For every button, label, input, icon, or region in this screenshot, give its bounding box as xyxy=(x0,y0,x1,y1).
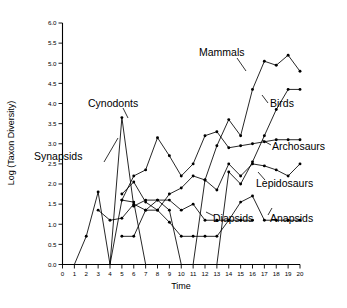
lepidosaurs-point xyxy=(132,181,135,184)
anapsids-point xyxy=(239,201,242,204)
birds-point xyxy=(287,88,290,91)
x-tick-label: 9 xyxy=(168,270,172,277)
y-tick-label: 6.0 xyxy=(48,19,57,26)
anapsids-point xyxy=(97,209,100,212)
y-tick-label: 4.0 xyxy=(48,100,57,107)
x-tick-label: 3 xyxy=(96,270,100,277)
x-tick-label: 10 xyxy=(178,270,185,277)
y-tick-label: 1.5 xyxy=(48,200,57,207)
birds-point xyxy=(263,134,266,137)
mammals-point xyxy=(227,118,230,121)
lepidosaurs-point xyxy=(299,162,302,165)
archosaurs-point xyxy=(132,175,135,178)
archosaurs-point xyxy=(144,168,147,171)
mammals-point xyxy=(204,179,207,182)
label-archosaurs: Archosaurs xyxy=(272,140,325,152)
y-tick-label: 1.0 xyxy=(48,221,57,228)
label-mammals: Mammals xyxy=(199,46,245,58)
anapsids-point xyxy=(156,199,159,202)
diapsids-point xyxy=(192,235,195,238)
y-tick-label: 5.0 xyxy=(48,60,57,67)
y-tick-label: 4.5 xyxy=(48,80,57,87)
x-axis-title: Time xyxy=(171,281,191,291)
label-lepidosaurs: Lepidosaurs xyxy=(256,177,313,189)
y-tick-label: 0.5 xyxy=(48,241,57,248)
label-synapsids: Synapsids xyxy=(34,150,82,162)
archosaurs-point xyxy=(180,175,183,178)
lepidosaurs-point xyxy=(168,193,171,196)
x-tick-label: 18 xyxy=(273,270,280,277)
diapsids-point xyxy=(132,235,135,238)
anapsids-point xyxy=(204,219,207,222)
lepidosaurs-point xyxy=(192,175,195,178)
lepidosaurs-point xyxy=(156,209,159,212)
birds-point xyxy=(227,170,230,173)
x-tick-label: 12 xyxy=(202,270,209,277)
archosaurs-point xyxy=(204,134,207,137)
mammals-point xyxy=(239,134,242,137)
mammals-point xyxy=(287,54,290,57)
anapsids-point xyxy=(120,217,123,220)
lepidosaurs-point xyxy=(263,164,266,167)
diapsids-point xyxy=(168,221,171,224)
lepidosaurs-point xyxy=(120,193,123,196)
y-axis-title: Log (Taxon Diversity) xyxy=(6,101,16,186)
synapsids-point xyxy=(85,235,88,238)
diapsids-point xyxy=(120,235,123,238)
x-tick-label: 1 xyxy=(73,270,77,277)
anapsids-point xyxy=(132,203,135,206)
label-anapsids: Anapsids xyxy=(270,212,313,224)
archosaurs-point xyxy=(192,162,195,165)
lepidosaurs-point xyxy=(239,175,242,178)
chart-figure: 0.00.51.01.52.02.53.03.54.04.55.05.56.0 … xyxy=(0,0,347,308)
x-tick-label: 6 xyxy=(132,270,136,277)
x-tick-label: 7 xyxy=(144,270,148,277)
anapsids-point xyxy=(263,219,266,222)
taxon-diversity-line-chart: 0.00.51.01.52.02.53.03.54.04.55.05.56.0 … xyxy=(0,0,347,308)
anapsids-point xyxy=(192,203,195,206)
archosaurs-point xyxy=(215,130,218,133)
birds-point xyxy=(299,88,302,91)
label-cynodonts: Cynodonts xyxy=(88,97,138,109)
x-tick-label: 0 xyxy=(61,270,65,277)
x-tick-label: 19 xyxy=(285,270,292,277)
y-tick-label: 0.0 xyxy=(48,261,57,268)
x-tick-label: 5 xyxy=(120,270,124,277)
x-axis-tick-labels: 01234567891011121314151617181920 xyxy=(61,270,304,277)
archosaurs-point xyxy=(156,136,159,139)
cynodonts-point xyxy=(168,209,171,212)
cynodonts-point xyxy=(120,116,123,119)
x-tick-label: 17 xyxy=(261,270,268,277)
diapsids-point xyxy=(144,209,147,212)
mammals-point xyxy=(215,144,218,147)
y-tick-label: 3.5 xyxy=(48,120,57,127)
x-axis-ticks xyxy=(63,265,301,269)
x-tick-label: 20 xyxy=(297,270,304,277)
lepidosaurs-point xyxy=(180,187,183,190)
x-tick-label: 8 xyxy=(156,270,160,277)
mammals-point xyxy=(299,70,302,73)
y-tick-label: 2.0 xyxy=(48,180,57,187)
mammals-point xyxy=(251,88,254,91)
mammals-point xyxy=(263,60,266,63)
label-birds: Birds xyxy=(270,97,294,109)
archosaurs-point xyxy=(239,144,242,147)
lepidosaurs-point xyxy=(144,201,147,204)
archosaurs-point xyxy=(168,154,171,157)
x-tick-label: 14 xyxy=(225,270,232,277)
lepidosaurs-point xyxy=(215,189,218,192)
x-tick-label: 2 xyxy=(85,270,89,277)
y-tick-label: 3.0 xyxy=(48,140,57,147)
mammals-point xyxy=(275,64,278,67)
x-tick-label: 4 xyxy=(108,270,112,277)
anapsids-point xyxy=(180,209,183,212)
birds-point xyxy=(239,183,242,186)
diapsids-point xyxy=(180,235,183,238)
diapsids-point xyxy=(215,235,218,238)
archosaurs-point xyxy=(120,199,123,202)
birds-point xyxy=(251,160,254,163)
anapsids-point xyxy=(109,219,112,222)
diapsids-point xyxy=(204,235,207,238)
x-tick-label: 16 xyxy=(249,270,256,277)
x-tick-label: 11 xyxy=(190,270,197,277)
